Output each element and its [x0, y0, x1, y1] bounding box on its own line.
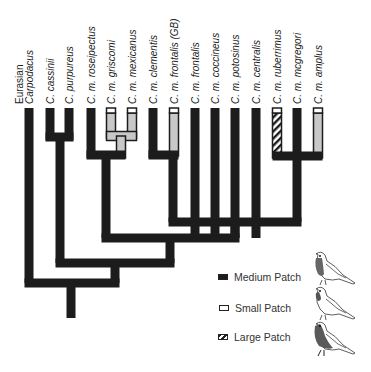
branch-eurasian [25, 113, 34, 283]
branch-frontalis-gb [170, 113, 179, 156]
legend-small-label: Small Patch [235, 302, 291, 314]
leaf-label-potosinus: C. m. potosinus [231, 35, 241, 104]
tip-cap [211, 108, 220, 113]
bird-medium-patch-icon [308, 250, 358, 290]
legend-small: Small Patch [219, 302, 291, 314]
bird-small-patch-icon [308, 285, 358, 325]
leaf-label-griscomi: C. m. griscomi [107, 40, 117, 104]
leaf-label-mexicanus: C. m. mexicanus [128, 30, 138, 104]
leaf-label-coccineus: C. m. coccineus [211, 33, 221, 104]
tip-cap [314, 108, 323, 113]
tip-cap [252, 108, 261, 113]
leaf-label-clementis: C. m. clementis [149, 35, 159, 104]
legend-large: Large Patch [218, 331, 291, 343]
leaf-label-mcgregori: C. m. mcgregori [293, 33, 303, 104]
stem-clementis-clade [169, 155, 178, 222]
tip-cap [231, 108, 240, 113]
tip-cap [273, 108, 282, 113]
tip-cap [170, 108, 179, 113]
tip-cap [107, 108, 116, 113]
legend-medium-label: Medium Patch [234, 271, 301, 283]
branch-amplus [314, 113, 323, 158]
leaf-label-purpureus: C. purpureus [65, 46, 75, 104]
leaf-label-frontalis_gb: C. m. frontalis (GB) [170, 18, 180, 104]
tip-cap [149, 108, 158, 113]
bird-large-patch-icon [308, 320, 358, 362]
tip-cap [87, 108, 96, 113]
leaf-label-roseipectus: C. m. roseipectus [87, 26, 97, 104]
tip-cap [293, 108, 302, 113]
tip-cap [25, 108, 34, 113]
leaf-label-frontalis: C. m. frontalis [191, 42, 201, 104]
leaf-label-amplus: C. m. amplus [314, 45, 324, 104]
tip-cap [128, 108, 137, 113]
stem-roseipectus-clade [102, 155, 111, 238]
leaf-label-eurasian-line2: Carpodacus [25, 50, 35, 104]
phylogeny-figure: EurasianCarpodacusC. cassiniiC. purpureu… [0, 0, 371, 372]
leaf-label-cassinii: C. cassinii [46, 58, 56, 104]
tip-cap [65, 108, 74, 113]
large-patch-swatch [218, 334, 228, 340]
leaf-label-centralis: C. m. centralis [252, 40, 262, 104]
leaf-label-ruberrimus: C. m. ruberrimus [273, 30, 283, 104]
legend-medium: Medium Patch [218, 271, 301, 283]
root-stem [67, 283, 76, 318]
stem-cassinii-purpureus [56, 137, 65, 263]
branch-ruberrimus [273, 113, 282, 158]
branch-mcgregori [293, 113, 302, 158]
tip-cap [46, 108, 55, 113]
small-patch-swatch [219, 305, 229, 311]
legend-large-label: Large Patch [234, 331, 291, 343]
tip-cap [191, 108, 200, 113]
stem-mcgregori-clade [293, 156, 302, 222]
medium-patch-swatch [218, 274, 228, 280]
